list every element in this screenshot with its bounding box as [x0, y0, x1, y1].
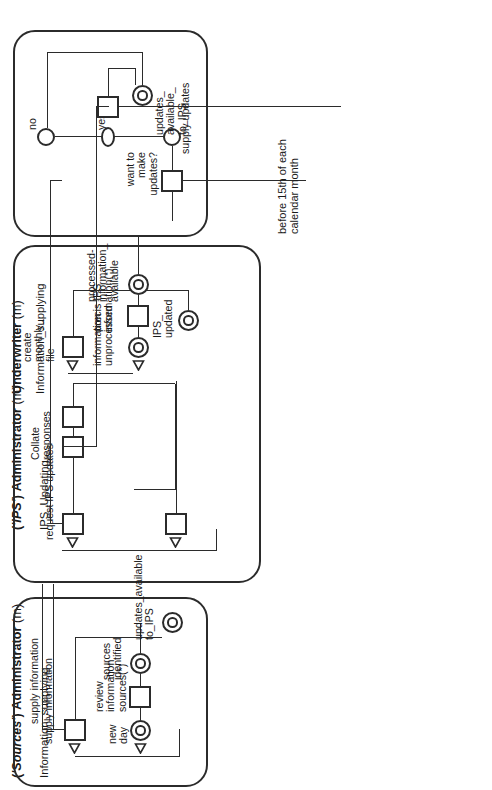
connector-supply-updates-to-state — [135, 68, 136, 85]
connector-yes-to-no — [55, 136, 102, 137]
connector-collate-right — [73, 384, 74, 406]
label-sources-identified: sources identified — [101, 638, 124, 680]
connector-supply-updates-cross — [96, 107, 97, 447]
connector-supply-updates-cross-down — [62, 446, 96, 447]
state-ips-updated[interactable] — [178, 310, 199, 331]
arrow-into-request-ips-updates — [66, 537, 79, 548]
arrow-into-create-monthly-file — [66, 360, 79, 371]
ips-thread-spine-foot — [216, 529, 217, 551]
label-want-to-make-updates: want to make updates? — [125, 152, 159, 222]
connector-supply-info-stub-up — [53, 729, 65, 730]
connector-request-up-stub — [50, 523, 62, 524]
activity-precis-ips-information[interactable] — [127, 305, 149, 327]
connector-supply-information-right — [75, 638, 76, 719]
label-updates-available-to-ips-sources: updates_available to_IPS — [133, 555, 156, 640]
connector-supply-updates-right — [108, 69, 109, 96]
state-processed-information-available[interactable] — [128, 274, 149, 295]
decision-circle-no[interactable] — [37, 128, 55, 146]
arrow-into-information-unprocessed — [132, 360, 145, 371]
connector-no-right — [47, 53, 48, 128]
state-new-day[interactable] — [130, 720, 151, 741]
state-sources-identified[interactable] — [130, 653, 151, 674]
connector-precis-to-processed — [138, 295, 139, 305]
connector-into-want-box — [172, 191, 173, 221]
connector-unproc-to-precis — [138, 327, 139, 337]
arrow-into-ips-updating-entry — [169, 537, 182, 548]
connector-collate-down — [73, 383, 175, 384]
decision-circle-yes[interactable] — [101, 127, 115, 147]
connector-ips-updating-right — [176, 381, 177, 513]
arrow-into-supply-information — [68, 743, 81, 754]
connector-want-to-decision — [172, 146, 173, 170]
label-processed-information-available: processed- information_ available — [86, 244, 120, 302]
label-updates-available-to-ips-underwriter: updates_ available_ to_IPS — [154, 87, 188, 135]
label-no: no — [27, 118, 38, 130]
connector-supply-updates-cross-up — [96, 106, 109, 107]
activity-collate-responses-box1[interactable] — [62, 436, 84, 458]
connector-supply-info-stub-b — [42, 729, 53, 730]
label-create-monthly-file: create monthly_ file — [22, 319, 56, 362]
connector-no-down — [47, 52, 142, 53]
activity-want-to-make-updates[interactable] — [161, 170, 183, 192]
connector-request-down-stub — [50, 180, 62, 181]
connector-request-to-collate — [73, 458, 74, 513]
connector-processed-right — [138, 236, 139, 274]
connector-no-to-state — [142, 52, 143, 85]
label-ips-updated: IPS_ updated — [152, 300, 175, 338]
state-updates-available-to-ips-sources[interactable] — [162, 612, 183, 633]
connector-create-right — [73, 291, 74, 336]
label-xlane-supply-information: supply information — [29, 638, 40, 724]
activity-review-information-sources[interactable] — [129, 686, 151, 708]
connector-collate-back-up — [134, 489, 176, 490]
activity-collate-responses-box2[interactable] — [62, 406, 84, 428]
sources-thread-spine-foot — [179, 729, 180, 757]
ips-thread-spine — [62, 550, 216, 551]
activity-ips-updating-entry[interactable] — [165, 513, 187, 535]
connector-request-cross — [50, 181, 51, 524]
activity-create-monthly-file[interactable] — [62, 336, 84, 358]
connector-collate-boxes — [73, 428, 74, 436]
arrow-into-new-day — [134, 743, 147, 754]
label-new-day: new day — [107, 725, 130, 744]
connector-supply-info-cross-a — [53, 584, 54, 730]
connector-create-to-ips-updated — [188, 290, 189, 310]
diagram-canvas: Underwriter (m) Information_supplying wa… — [0, 0, 492, 790]
activity-supply-information[interactable] — [64, 719, 86, 741]
connector-decision-to-yes — [108, 136, 164, 137]
connector-review-to-sources-identified — [140, 674, 141, 686]
note-before-15th: before 15th of each calendar month — [276, 139, 301, 234]
state-updates-available-to-ips-underwriter[interactable] — [132, 85, 153, 106]
state-information-unprocessed[interactable] — [128, 337, 149, 358]
activity-supply-updates[interactable] — [97, 96, 119, 118]
activity-request-ips-updates-box[interactable] — [62, 513, 84, 535]
connector-supply-info-cross-b — [42, 584, 43, 730]
connector-newday-to-review — [140, 708, 141, 720]
interaction-line-supply-updates-down — [119, 106, 341, 107]
connector-create-spine — [68, 373, 133, 374]
connector-supply-updates-down — [108, 68, 135, 69]
sources-thread-spine — [75, 756, 179, 757]
